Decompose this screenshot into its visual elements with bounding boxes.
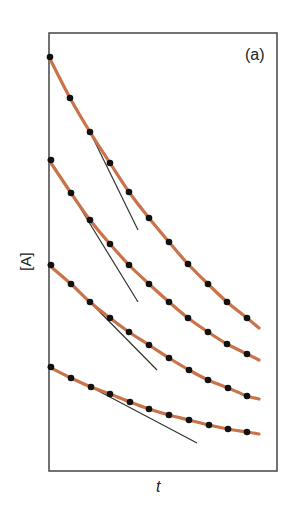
data-point	[146, 342, 153, 349]
data-point	[126, 189, 133, 196]
data-point	[48, 157, 55, 164]
data-point	[166, 239, 173, 246]
data-point	[107, 315, 114, 322]
decay-curves	[49, 57, 259, 434]
tangent-line-1	[90, 132, 138, 230]
data-point	[67, 95, 74, 102]
data-point	[87, 299, 94, 306]
data-point	[244, 429, 251, 436]
data-point	[166, 299, 173, 306]
data-point	[205, 329, 212, 336]
data-point	[87, 217, 94, 224]
data-point	[126, 329, 133, 336]
data-point	[107, 241, 114, 248]
data-point	[146, 215, 153, 222]
data-point	[88, 384, 95, 391]
data-point	[146, 406, 153, 413]
data-point	[126, 262, 133, 269]
x-axis-label: t	[156, 478, 160, 496]
data-point	[244, 315, 251, 322]
data-point	[225, 426, 232, 433]
data-point	[185, 261, 192, 268]
curve-2	[49, 160, 259, 360]
data-point	[166, 412, 173, 419]
data-point	[244, 351, 251, 358]
data-point	[225, 385, 232, 392]
curve-3	[49, 265, 259, 399]
data-point	[48, 364, 55, 371]
data-point	[127, 399, 134, 406]
data-point	[146, 281, 153, 288]
data-point	[244, 393, 251, 400]
data-point	[107, 160, 114, 167]
data-point	[68, 281, 75, 288]
data-point	[186, 417, 193, 424]
data-point	[48, 262, 55, 269]
data-point	[185, 315, 192, 322]
curve-4	[49, 367, 259, 434]
data-point	[68, 375, 75, 382]
tangent-lines	[71, 132, 197, 443]
data-point	[186, 367, 193, 374]
data-point	[206, 422, 213, 429]
data-point	[47, 54, 54, 61]
panel-label: (a)	[245, 46, 265, 64]
plot-frame	[49, 33, 277, 471]
data-point	[87, 129, 94, 136]
data-point	[205, 281, 212, 288]
data-point	[205, 377, 212, 384]
y-axis-label: [A]	[17, 247, 34, 277]
chart-canvas	[0, 0, 296, 525]
data-point	[224, 341, 231, 348]
data-point	[68, 190, 75, 197]
data-point	[224, 299, 231, 306]
tangent-line-4	[91, 387, 197, 443]
data-point	[166, 355, 173, 362]
data-point	[107, 391, 114, 398]
